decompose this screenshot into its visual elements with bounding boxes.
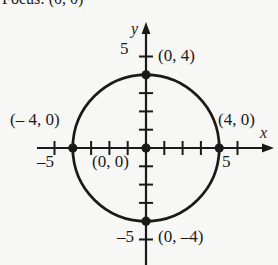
point-label-top: (0, 4) — [158, 47, 195, 64]
point-marker-left — [68, 143, 77, 152]
circle-graph-figure: Focus: (0, 0) — [0, 0, 278, 265]
point-marker-origin — [141, 143, 150, 152]
y-axis-label: y — [131, 21, 138, 37]
coordinate-plane — [0, 0, 278, 265]
point-label-right: (4, 0) — [218, 111, 255, 128]
point-label-bottom: (0, –4) — [158, 228, 203, 245]
point-marker-top — [141, 70, 150, 79]
point-marker-bottom — [141, 217, 150, 226]
y-axis-arrowhead — [142, 22, 151, 34]
y-tick-label-minus5: –5 — [117, 228, 134, 245]
x-tick-label-minus5: –5 — [37, 153, 54, 170]
point-label-origin: (0, 0) — [92, 153, 129, 170]
x-axis-label: x — [260, 125, 267, 141]
point-label-left: (– 4, 0) — [10, 111, 60, 128]
y-tick-label-5: 5 — [120, 40, 129, 57]
x-axis-arrowhead — [262, 144, 274, 153]
x-tick-label-5: 5 — [222, 153, 231, 170]
